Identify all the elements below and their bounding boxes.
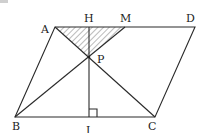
shaded-triangle-amp — [55, 27, 125, 57]
geometry-diagram: A H M D P B I C — [0, 0, 200, 133]
label-h: H — [84, 12, 94, 25]
label-c: C — [148, 120, 156, 133]
point-p-dot — [88, 56, 91, 59]
label-i: I — [86, 124, 90, 133]
label-b: B — [12, 120, 20, 133]
label-d: D — [186, 12, 195, 25]
right-angle-marker — [89, 109, 97, 117]
label-p: P — [97, 53, 105, 66]
label-a: A — [40, 23, 50, 36]
label-m: M — [120, 12, 131, 25]
